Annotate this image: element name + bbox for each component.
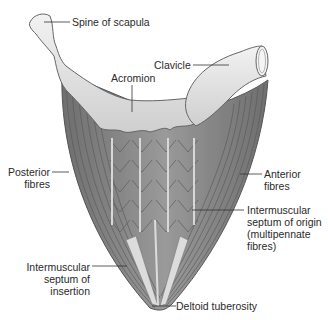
label-acromion: Acromion [111,72,155,84]
label-clavicle: Clavicle [154,59,191,71]
label-anterior-fibres: Anterior fibres [264,168,301,192]
label-septum-of-insertion-line2: septum of [10,273,90,285]
label-septum-of-insertion-line3: insertion [10,285,90,297]
label-posterior-fibres: Posterior fibres [4,166,50,190]
label-septum-of-origin-line1: Intermuscular [247,204,322,216]
label-septum-of-origin: Intermuscular septum of origin (multipen… [247,204,322,252]
label-septum-of-origin-line2: septum of origin [247,216,322,228]
label-septum-of-insertion-line1: Intermuscular [10,261,90,273]
label-septum-of-origin-line4: fibres) [247,240,322,252]
label-posterior-fibres-line1: Posterior [4,166,50,178]
label-deltoid-tuberosity: Deltoid tuberosity [176,300,257,312]
label-anterior-fibres-line2: fibres [264,180,301,192]
label-spine-of-scapula: Spine of scapula [72,16,150,28]
label-anterior-fibres-line1: Anterior [264,168,301,180]
label-posterior-fibres-line2: fibres [4,178,50,190]
label-septum-of-insertion: Intermuscular septum of insertion [10,261,90,297]
label-septum-of-origin-line3: (multipennate [247,228,322,240]
